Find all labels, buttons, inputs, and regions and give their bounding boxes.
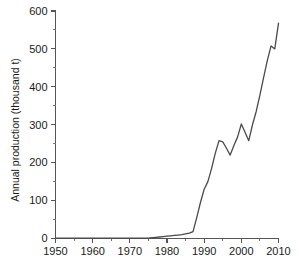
production-line-chart: Annual production (thousand t) 010020030… xyxy=(0,0,299,268)
x-tick-label: 1960 xyxy=(80,245,104,257)
y-tick-label: 200 xyxy=(29,156,47,168)
y-tick-label: 100 xyxy=(29,194,47,206)
data-series-line xyxy=(56,23,279,238)
y-tick-label: 600 xyxy=(29,5,47,17)
x-tick-label: 1980 xyxy=(155,245,179,257)
y-tick-label: 400 xyxy=(29,81,47,93)
x-axis-tick-labels: 1950196019701980199020002010 xyxy=(43,245,290,257)
y-tick-label: 500 xyxy=(29,43,47,55)
x-tick-label: 1990 xyxy=(192,245,216,257)
x-tick-label: 2000 xyxy=(229,245,253,257)
x-axis-ticks xyxy=(56,239,279,244)
y-axis-tick-labels: 0100200300400500600 xyxy=(29,5,47,245)
y-axis-title: Annual production (thousand t) xyxy=(9,58,21,202)
y-axis-ticks xyxy=(51,11,56,239)
y-tick-label: 0 xyxy=(41,232,47,244)
axis-lines xyxy=(56,11,279,239)
x-tick-label: 1970 xyxy=(118,245,142,257)
chart-container: Annual production (thousand t) 010020030… xyxy=(0,0,299,268)
x-tick-label: 1950 xyxy=(43,245,67,257)
y-tick-label: 300 xyxy=(29,119,47,131)
x-tick-label: 2010 xyxy=(266,245,290,257)
